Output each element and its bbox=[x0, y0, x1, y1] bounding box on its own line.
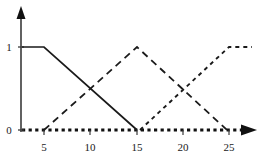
y-tick-label-0: 0 bbox=[6, 124, 12, 136]
y-tick-label-1: 1 bbox=[6, 41, 12, 53]
fuzzy-membership-chart: 1 0 5 10 15 20 25 bbox=[0, 0, 261, 156]
x-tick-label-15: 15 bbox=[132, 141, 144, 153]
x-tick-label-10: 10 bbox=[85, 141, 97, 153]
x-tick-label-5: 5 bbox=[41, 141, 47, 153]
x-tick-label-25: 25 bbox=[224, 141, 236, 153]
x-tick-label-20: 20 bbox=[178, 141, 190, 153]
chart-background bbox=[0, 0, 261, 156]
